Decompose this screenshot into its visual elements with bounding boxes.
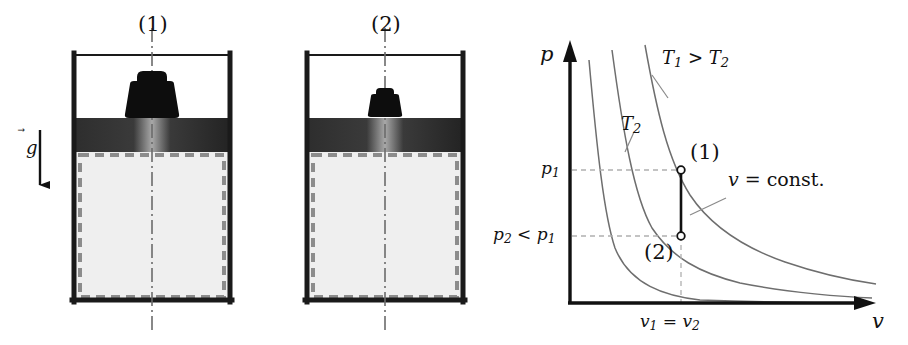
v-const-variable: v xyxy=(728,168,739,190)
chart-state-2-label: (2) xyxy=(644,242,674,263)
v-tick-label: v1 = v2 xyxy=(640,313,700,332)
p2-tick-label: p2 < p1 xyxy=(493,226,555,245)
t-relation-operator: > xyxy=(682,47,709,68)
cylinder-2-state-label: (2) xyxy=(371,14,401,35)
p2-compare-subscript: 1 xyxy=(548,232,556,246)
cylinder-1-group xyxy=(72,28,232,330)
p1-tick-label: p1 xyxy=(541,160,560,179)
p2-relation: < xyxy=(512,224,537,244)
state-point-2-marker xyxy=(677,232,685,240)
v-const-annotation: v = const. xyxy=(728,170,824,189)
chart-state-1-label: (1) xyxy=(690,142,720,163)
v-const-text: = const. xyxy=(739,168,825,190)
v-equals: = xyxy=(657,311,682,331)
p2-symbol: p xyxy=(493,224,504,244)
cylinder-1-state-label: (1) xyxy=(138,14,168,35)
temperature-relation-label: T1 > T2 xyxy=(662,49,729,70)
t2-symbol: T xyxy=(621,113,633,134)
t2-compare-subscript: 2 xyxy=(721,55,729,70)
t2-subscript: 2 xyxy=(633,121,641,136)
p2-subscript: 2 xyxy=(504,232,512,246)
v-axis-label: v xyxy=(872,311,884,332)
t2-compare-symbol: T xyxy=(709,47,721,68)
v1-symbol: v xyxy=(640,311,650,331)
gravity-symbol: g xyxy=(26,137,38,158)
v2-subscript: 2 xyxy=(692,319,700,333)
cylinder-2-group xyxy=(305,28,465,330)
p-axis-arrowhead xyxy=(563,40,577,62)
isotherm-T1-curve xyxy=(645,45,876,284)
thermodynamics-figure: (1) (2) ⃗ g p v p1 p2 < p1 v1 = v2 T1 > … xyxy=(0,0,908,345)
state-point-1-marker xyxy=(677,166,685,174)
p-axis-label: p xyxy=(540,44,553,65)
v2-symbol: v xyxy=(682,311,692,331)
pv-diagram xyxy=(563,40,876,310)
v-const-leader-line xyxy=(690,198,726,215)
p1-subscript: 1 xyxy=(552,166,560,180)
p2-compare-symbol: p xyxy=(537,224,548,244)
p1-symbol: p xyxy=(541,158,552,178)
isotherm-T2-label: T2 xyxy=(621,115,641,136)
gravity-label: ⃗ g xyxy=(26,139,38,157)
t1-symbol: T xyxy=(662,47,674,68)
